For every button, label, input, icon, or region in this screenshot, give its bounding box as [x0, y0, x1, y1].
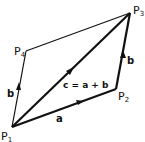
label-p1: P1	[1, 130, 12, 142]
vector-a	[12, 89, 116, 127]
label-p4: P4	[14, 45, 26, 59]
arrow-b-right-icon	[120, 50, 126, 58]
vector-parallelogram-diagram: P1 P2 P3 P4 a b b c = a + b	[0, 0, 145, 142]
label-vector-c: c = a + b	[63, 80, 109, 90]
label-vector-b-right: b	[127, 55, 134, 66]
label-p3: P3	[133, 4, 144, 18]
label-vector-b-left: b	[7, 88, 14, 99]
label-p2: P2	[118, 90, 129, 104]
edge-p4-p3	[26, 13, 130, 51]
label-vector-a: a	[56, 113, 63, 124]
